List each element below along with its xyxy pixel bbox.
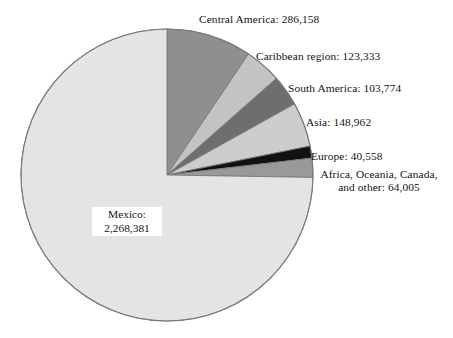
slice-label-europe: Europe: 40,558: [311, 150, 383, 163]
slice-label-africa-line1: Africa, Oceania, Canada,: [320, 168, 437, 180]
pie-slices-group: [21, 29, 313, 321]
pie-chart: Central America: 286,158 Caribbean regio…: [0, 0, 453, 338]
slice-label-asia: Asia: 148,962: [306, 116, 371, 129]
slice-label-south-america: South America: 103,774: [288, 82, 401, 95]
slice-label-mexico-line2: 2,268,381: [104, 222, 150, 234]
slice-label-central-america: Central America: 286,158: [199, 13, 319, 26]
slice-label-caribbean-region: Caribbean region: 123,333: [256, 50, 380, 63]
slice-label-africa-line2: and other: 64,005: [338, 181, 420, 193]
slice-label-mexico: Mexico: 2,268,381: [92, 207, 162, 236]
slice-label-mexico-line1: Mexico:: [108, 208, 146, 220]
slice-label-africa-oceania-canada-other: Africa, Oceania, Canada, and other: 64,0…: [305, 168, 453, 194]
